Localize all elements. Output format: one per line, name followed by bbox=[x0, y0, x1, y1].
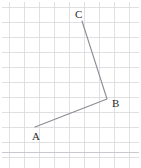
geometry-figure: ABC bbox=[0, 0, 141, 168]
vertex-label-c: C bbox=[75, 8, 82, 20]
figure-canvas: ABC bbox=[0, 0, 141, 168]
figure-background bbox=[0, 0, 141, 168]
vertex-label-a: A bbox=[32, 130, 40, 142]
vertex-label-b: B bbox=[112, 97, 119, 109]
